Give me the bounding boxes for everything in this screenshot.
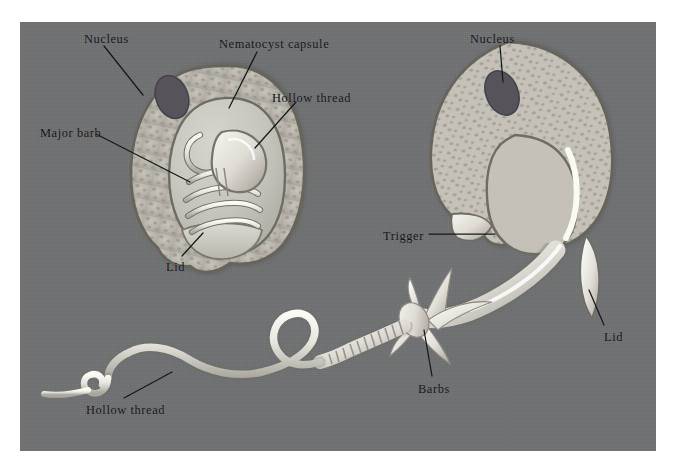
label-nucleus-left: Nucleus <box>84 33 129 45</box>
nematocyst-artwork <box>0 0 674 463</box>
label-nematocyst-capsule: Nematocyst capsule <box>219 38 329 50</box>
label-lid-left: Lid <box>166 261 185 273</box>
label-hollow-thread-bottom: Hollow thread <box>86 404 165 416</box>
label-trigger: Trigger <box>383 230 424 242</box>
ribbed-shaft <box>320 326 404 362</box>
thread-tail <box>44 390 88 395</box>
label-major-barb: Major barb <box>40 127 101 139</box>
illustration-figure: Nucleus Nematocyst capsule Hollow thread… <box>0 0 674 463</box>
leader-nucleus-left <box>104 46 143 95</box>
discharged-nematocyte <box>424 40 614 319</box>
label-hollow-thread-top: Hollow thread <box>272 92 351 104</box>
label-barbs: Barbs <box>418 383 450 395</box>
leader-hollow-thread-bottom <box>124 372 172 398</box>
label-lid-right: Lid <box>604 331 623 343</box>
label-nucleus-right: Nucleus <box>470 33 515 45</box>
